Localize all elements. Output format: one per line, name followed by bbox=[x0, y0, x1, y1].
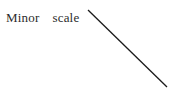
leader-line bbox=[88, 10, 167, 87]
leader-line-icon bbox=[0, 0, 170, 92]
figure-root: Minor scale bbox=[0, 0, 170, 92]
